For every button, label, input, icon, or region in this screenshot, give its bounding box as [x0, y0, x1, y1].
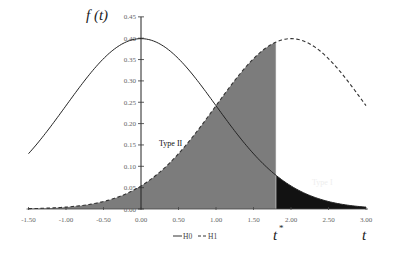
- critical-value-text: t: [273, 227, 278, 243]
- legend-h0-label: H0: [183, 232, 192, 241]
- type-ii-label: Type II: [159, 139, 183, 148]
- y-tick-label: 0.25: [124, 99, 137, 107]
- y-tick-label: 0.35: [124, 56, 137, 64]
- legend: H0 H1: [173, 232, 217, 241]
- x-axis-title: t: [362, 227, 367, 243]
- x-tick-label: 3.00: [360, 216, 373, 224]
- x-tick-label: -1.00: [59, 216, 74, 224]
- x-ticks: -1.50-1.00-0.500.000.501.001.502.002.503…: [21, 207, 372, 224]
- y-tick-label: 0.30: [124, 77, 137, 85]
- x-tick-label: 1.50: [247, 216, 260, 224]
- y-tick-label: 0.40: [124, 35, 137, 43]
- y-tick-label: 0.15: [124, 141, 137, 149]
- type-i-label: Type I: [312, 178, 333, 187]
- y-tick-label: 0.05: [124, 184, 137, 192]
- y-tick-label: 0.10: [124, 163, 137, 171]
- legend-h1-label: H1: [208, 232, 217, 241]
- x-tick-label: 2.50: [322, 216, 335, 224]
- x-tick-label: 0.50: [172, 216, 185, 224]
- x-tick-label: -0.50: [96, 216, 111, 224]
- type-ii-region: [29, 42, 277, 209]
- x-tick-label: 0.00: [135, 216, 148, 224]
- x-tick-label: -1.50: [21, 216, 36, 224]
- critical-value-label: t *: [273, 223, 284, 243]
- y-axis-title: f (t): [86, 7, 108, 24]
- critical-value-star: *: [279, 223, 284, 233]
- x-tick-label: 1.00: [210, 216, 223, 224]
- y-tick-label: 0.20: [124, 120, 137, 128]
- hypothesis-test-chart: -1.50-1.00-0.500.000.501.001.502.002.503…: [0, 0, 397, 258]
- y-tick-label: 0.00: [124, 206, 137, 214]
- y-tick-label: 0.45: [124, 13, 137, 21]
- x-tick-label: 2.00: [285, 216, 298, 224]
